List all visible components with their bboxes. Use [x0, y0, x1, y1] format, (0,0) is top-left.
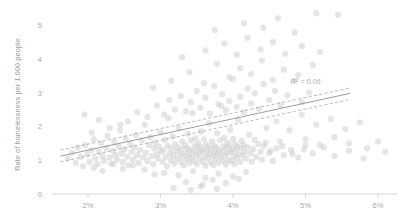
- data-point: [248, 71, 254, 77]
- data-point: [197, 183, 203, 189]
- data-point: [259, 156, 265, 162]
- data-point: [124, 154, 130, 160]
- data-point: [234, 52, 240, 58]
- data-point: [150, 161, 156, 167]
- data-point: [306, 90, 312, 96]
- data-point: [263, 125, 269, 131]
- data-point: [107, 154, 113, 160]
- data-point: [75, 144, 81, 150]
- data-point: [210, 177, 216, 183]
- data-point: [121, 146, 127, 152]
- data-point: [246, 132, 252, 138]
- x-tick-label: 2%: [83, 201, 94, 210]
- data-point: [161, 170, 167, 176]
- data-point: [331, 134, 337, 140]
- data-point: [219, 91, 225, 97]
- data-point: [86, 159, 92, 165]
- data-point: [317, 142, 323, 148]
- data-point: [255, 141, 261, 147]
- data-point: [266, 97, 272, 103]
- data-point: [375, 139, 381, 145]
- data-point: [198, 128, 204, 134]
- data-point: [130, 156, 136, 162]
- data-point: [243, 155, 249, 161]
- data-point: [226, 74, 232, 80]
- x-tick-label: 5%: [300, 201, 311, 210]
- data-point: [259, 57, 265, 63]
- data-point: [227, 127, 233, 133]
- data-point: [101, 158, 107, 164]
- data-point: [234, 104, 240, 110]
- data-point: [188, 99, 194, 105]
- data-point: [118, 122, 124, 128]
- plot-area: 2%3%4%5%6%012345 R² = 0.06: [0, 0, 411, 223]
- data-point: [168, 78, 174, 84]
- data-point: [152, 171, 158, 177]
- data-point: [154, 102, 160, 108]
- data-point: [342, 126, 348, 132]
- data-point: [253, 154, 259, 160]
- data-point: [91, 136, 97, 142]
- data-point: [80, 163, 86, 169]
- data-point: [146, 142, 152, 148]
- data-point: [236, 176, 242, 182]
- data-point: [268, 148, 274, 154]
- data-point: [357, 119, 363, 125]
- data-point: [206, 120, 212, 126]
- data-point: [201, 80, 207, 86]
- data-point: [364, 145, 370, 151]
- data-point: [317, 49, 323, 55]
- data-point: [221, 40, 227, 46]
- data-point: [231, 161, 237, 167]
- data-point: [214, 61, 220, 67]
- data-point: [260, 25, 266, 31]
- data-point: [161, 111, 167, 117]
- data-point: [194, 161, 200, 167]
- data-point: [244, 35, 250, 41]
- data-point: [202, 95, 208, 101]
- data-point: [313, 10, 319, 16]
- data-point: [91, 165, 97, 171]
- data-point: [310, 150, 316, 156]
- data-point: [346, 148, 352, 154]
- data-point: [144, 114, 150, 120]
- data-point: [81, 111, 87, 117]
- data-point: [382, 149, 388, 155]
- data-point: [134, 109, 140, 115]
- data-point: [164, 163, 170, 169]
- data-point: [273, 118, 279, 124]
- x-tick-label: 4%: [228, 201, 239, 210]
- data-point: [155, 155, 161, 161]
- data-point: [281, 152, 287, 158]
- data-point: [73, 160, 79, 166]
- data-point: [110, 161, 116, 167]
- data-point: [263, 140, 269, 146]
- y-tick-label: 5: [38, 21, 42, 30]
- data-point: [289, 151, 295, 157]
- data-point: [295, 154, 301, 160]
- data-point: [130, 162, 136, 168]
- data-point: [215, 171, 221, 177]
- data-point: [212, 27, 218, 33]
- data-point: [331, 153, 337, 159]
- data-point: [241, 20, 247, 26]
- data-point: [230, 173, 236, 179]
- data-point: [137, 147, 143, 153]
- data-point: [181, 162, 187, 168]
- data-point: [136, 160, 142, 166]
- data-point: [89, 129, 95, 135]
- data-point: [201, 136, 207, 142]
- axis-layer: [52, 194, 397, 198]
- data-point: [183, 179, 189, 185]
- data-point: [237, 94, 243, 100]
- data-point: [243, 169, 249, 175]
- data-point: [189, 110, 195, 116]
- data-point: [252, 90, 258, 96]
- data-point: [282, 51, 288, 57]
- y-tick-label: 2: [38, 122, 42, 131]
- data-point: [273, 145, 279, 151]
- data-point: [270, 158, 276, 164]
- data-point: [230, 136, 236, 142]
- data-point: [279, 143, 285, 149]
- data-point: [272, 88, 278, 94]
